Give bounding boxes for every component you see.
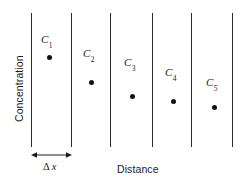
concentration-label-c5-base: C (206, 76, 213, 88)
concentration-label-c1-base: C (41, 33, 48, 45)
cell-boundary-line-4 (152, 13, 153, 147)
concentration-label-c3: C3 (124, 57, 135, 71)
concentration-label-c2: C2 (83, 48, 94, 62)
data-point-c3 (130, 94, 135, 99)
concentration-label-c5: C5 (206, 77, 217, 91)
concentration-label-c2-base: C (83, 47, 90, 59)
cell-boundary-line-6 (232, 13, 233, 147)
concentration-label-c3-subscript: 3 (132, 64, 136, 73)
x-axis-label: Distance (117, 163, 159, 175)
cell-boundary-line-5 (191, 13, 192, 147)
concentration-label-c1: C1 (41, 34, 52, 48)
concentration-distance-figure: C1 C2 C3 C4 C5 Δx Concentration Distance (0, 0, 250, 185)
y-axis-label: Concentration (13, 110, 97, 122)
data-point-c1 (47, 55, 52, 60)
concentration-label-c4-subscript: 4 (173, 74, 177, 83)
concentration-label-c2-subscript: 2 (91, 55, 95, 64)
concentration-label-c4-base: C (165, 66, 172, 78)
cell-boundary-line-2 (71, 13, 72, 147)
data-point-c5 (212, 105, 217, 110)
concentration-label-c3-base: C (124, 56, 131, 68)
delta-x-variable: x (52, 161, 57, 172)
delta-symbol: Δ (43, 161, 50, 172)
cell-boundary-line-1 (31, 13, 32, 147)
double-headed-arrow-icon (31, 150, 72, 160)
concentration-label-c1-subscript: 1 (49, 41, 53, 50)
cell-boundary-line-3 (110, 13, 111, 147)
concentration-label-c4: C4 (165, 67, 176, 81)
data-point-c4 (171, 99, 176, 104)
data-point-c2 (89, 80, 94, 85)
concentration-label-c5-subscript: 5 (214, 84, 218, 93)
delta-x-label: Δx (43, 161, 56, 172)
